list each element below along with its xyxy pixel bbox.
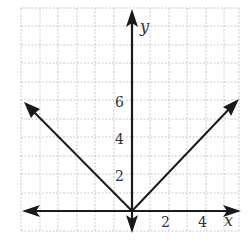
y-tick-4: 4 bbox=[115, 131, 124, 147]
graph: y x 2 4 2 4 6 bbox=[0, 0, 249, 243]
y-axis-label: y bbox=[139, 17, 150, 36]
grid bbox=[21, 8, 239, 231]
x-tick-4: 4 bbox=[198, 214, 207, 230]
y-axis bbox=[126, 9, 138, 233]
y-tick-6: 6 bbox=[115, 94, 124, 110]
x-tick-2: 2 bbox=[161, 214, 170, 230]
y-tick-2: 2 bbox=[115, 168, 124, 184]
x-axis-label: x bbox=[224, 211, 233, 230]
